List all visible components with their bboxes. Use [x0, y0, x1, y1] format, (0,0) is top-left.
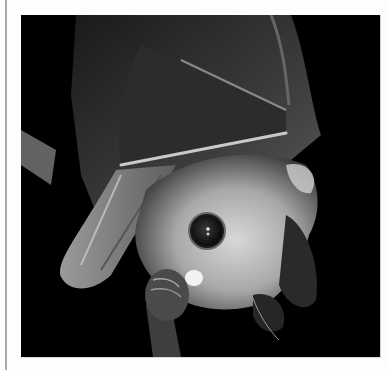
- bat-photograph: Black and white close-up photograph of a…: [21, 15, 381, 358]
- eye-glint: [206, 227, 210, 231]
- bat-illustration: [21, 15, 380, 357]
- page-margin-line: [5, 0, 7, 370]
- thumb-claw: [145, 269, 189, 321]
- nose-highlight: [185, 270, 203, 286]
